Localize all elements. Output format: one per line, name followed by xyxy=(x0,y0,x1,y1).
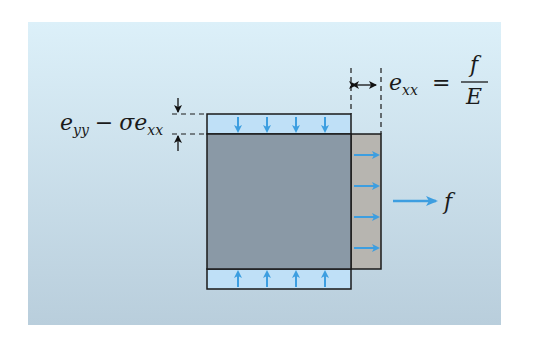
svg-text:=: = xyxy=(432,70,450,95)
svg-text:E: E xyxy=(465,84,482,109)
material-block xyxy=(207,134,351,269)
bottom-plate xyxy=(207,269,351,289)
poisson-strain-diagram: f eyy−σexx exx = f E xyxy=(0,0,536,345)
top-plate xyxy=(207,114,351,134)
